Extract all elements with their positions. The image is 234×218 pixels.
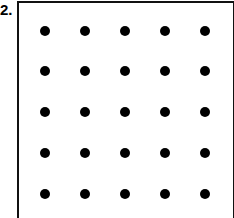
- grid-dot: [80, 107, 90, 117]
- grid-dot: [160, 107, 170, 117]
- grid-dot: [40, 189, 50, 199]
- grid-dot: [200, 107, 210, 117]
- problem-number: 2.: [0, 0, 13, 20]
- grid-dot: [80, 148, 90, 158]
- grid-dot: [40, 66, 50, 76]
- grid-dot: [200, 189, 210, 199]
- grid-dot: [40, 107, 50, 117]
- grid-dot: [40, 26, 50, 36]
- grid-dot: [120, 148, 130, 158]
- grid-dot: [40, 148, 50, 158]
- grid-dot: [80, 66, 90, 76]
- grid-dot: [80, 26, 90, 36]
- grid-dot: [120, 189, 130, 199]
- grid-dot: [160, 26, 170, 36]
- grid-dot: [120, 26, 130, 36]
- grid-dot: [200, 66, 210, 76]
- grid-dot: [200, 26, 210, 36]
- grid-dot: [80, 189, 90, 199]
- grid-dot: [120, 66, 130, 76]
- grid-dot: [160, 66, 170, 76]
- grid-dot: [200, 148, 210, 158]
- grid-dot: [120, 107, 130, 117]
- grid-dot: [160, 148, 170, 158]
- grid-dot: [160, 189, 170, 199]
